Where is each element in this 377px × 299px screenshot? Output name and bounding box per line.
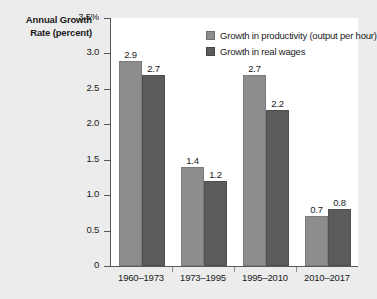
bar-value-label: 2.7	[239, 63, 270, 74]
y-axis-tick-label: 1.5	[86, 153, 99, 164]
bar	[119, 61, 142, 266]
bar	[204, 181, 227, 266]
x-axis-category-label: 1995–2010	[234, 272, 296, 283]
legend-item-real-wages: Growth in real wages	[206, 44, 377, 58]
legend-label-real-wages: Growth in real wages	[220, 46, 305, 57]
bar	[181, 167, 204, 266]
bar-value-label: 1.2	[200, 169, 231, 180]
legend-label-productivity: Growth in productivity (output per hour)	[220, 30, 377, 41]
bar	[328, 209, 351, 266]
y-axis-tick-label: 3.5%	[78, 11, 99, 22]
y-axis-tick: 3.5%	[0, 18, 110, 19]
y-axis-tick: 2.0	[0, 124, 110, 125]
x-axis-category-label: 1973–1995	[172, 272, 234, 283]
y-axis-tick: 2.5	[0, 89, 110, 90]
x-axis-category-label: 2010–2017	[296, 272, 358, 283]
legend-swatch-productivity	[206, 31, 215, 40]
y-axis-tick: 0	[0, 266, 110, 267]
chart-legend: Growth in productivity (output per hour)…	[206, 28, 377, 60]
bar	[266, 110, 289, 266]
bar-value-label: 1.4	[177, 155, 208, 166]
y-axis-tick: 3.0	[0, 53, 110, 54]
y-axis-tick-label: 0.5	[86, 224, 99, 235]
bar-value-label: 2.9	[115, 49, 146, 60]
bar-value-label: 0.8	[324, 197, 355, 208]
bar	[305, 216, 328, 266]
bar-value-label: 2.7	[138, 63, 169, 74]
bar-value-label: 2.2	[262, 98, 293, 109]
y-axis-tick-label: 2.0	[86, 117, 99, 128]
legend-swatch-real-wages	[206, 47, 215, 56]
x-axis-separator-tick	[172, 267, 173, 272]
y-axis-tick: 1.5	[0, 160, 110, 161]
y-axis-line	[110, 18, 111, 267]
y-axis-tick-label: 1.0	[86, 188, 99, 199]
x-axis-separator-tick	[296, 267, 297, 272]
y-axis-tick-label: 0	[94, 259, 99, 270]
bar	[142, 75, 165, 266]
y-axis-tick: 1.0	[0, 195, 110, 196]
x-axis-separator-tick	[234, 267, 235, 272]
legend-item-productivity: Growth in productivity (output per hour)	[206, 28, 377, 42]
y-axis-tick-label: 2.5	[86, 82, 99, 93]
y-axis-tick: 0.5	[0, 231, 110, 232]
y-axis-tick-label: 3.0	[86, 46, 99, 57]
x-axis-category-label: 1960–1973	[110, 272, 172, 283]
